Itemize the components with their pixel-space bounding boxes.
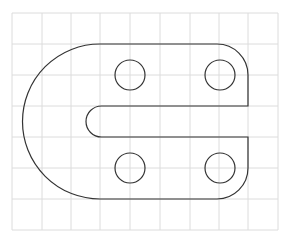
part-drawing-canvas [0,0,292,242]
holes-group [115,60,235,183]
part-outline [22,44,248,199]
background-grid [12,13,278,230]
